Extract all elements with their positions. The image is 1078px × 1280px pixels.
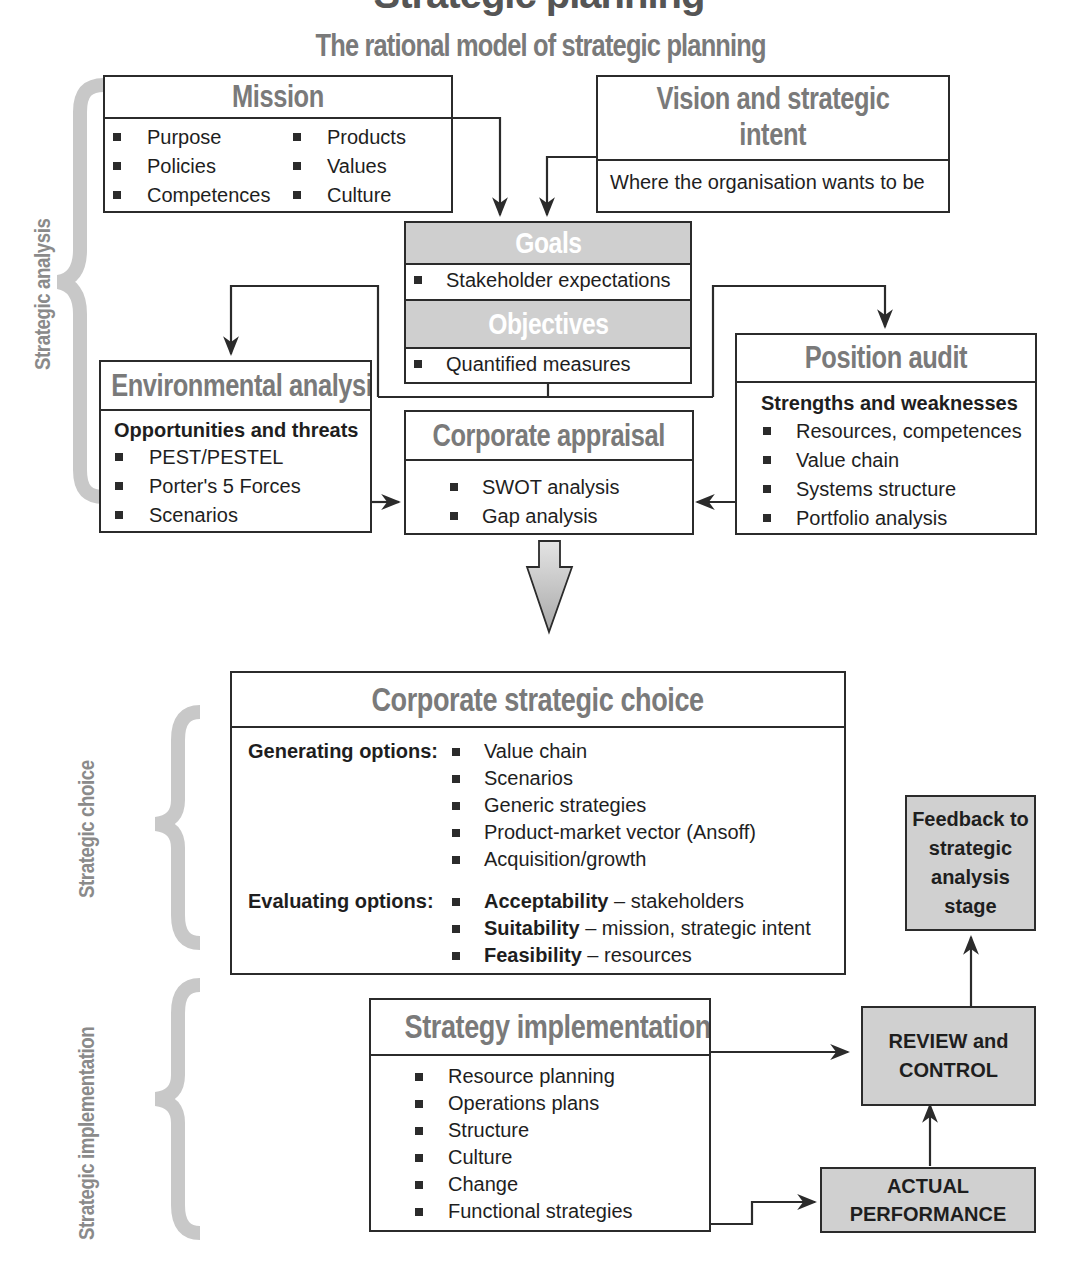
list-item: Systems structure [737, 475, 1035, 504]
criterion-detail: – resources [582, 944, 692, 966]
strategy-implementation-box: Strategy implementation Resource plannin… [369, 998, 711, 1232]
list-item: Suitability – mission, strategic intent [452, 915, 811, 942]
page-title: The rational model of strategic planning [99, 28, 983, 64]
position-title: Position audit [805, 335, 967, 381]
list-item: Competences [105, 181, 285, 210]
brace-choice [156, 712, 200, 943]
generating-options-list: Value chain Scenarios Generic strategies… [452, 738, 756, 873]
list-item: Value chain [737, 446, 1035, 475]
goals-title: Goals [515, 223, 581, 263]
list-item: Feasibility – resources [452, 942, 811, 969]
implementation-list: Resource planning Operations plans Struc… [371, 1056, 709, 1225]
list-item: Value chain [452, 738, 756, 765]
implementation-title: Strategy implementation [405, 1000, 709, 1054]
environmental-analysis-box: Environmental analysis Opportunities and… [99, 360, 372, 533]
goals-objectives-box: Goals Stakeholder expectations Objective… [404, 221, 692, 384]
list-item: Structure [371, 1117, 709, 1144]
evaluating-options-list: Acceptability – stakeholders Suitability… [452, 888, 811, 969]
side-label-strategic-analysis: Strategic analysis [30, 219, 56, 370]
criterion-name: Feasibility [484, 944, 582, 966]
list-item: Resources, competences [737, 417, 1035, 446]
list-item: Resource planning [371, 1063, 709, 1090]
review-line: REVIEW and [888, 1027, 1008, 1056]
list-item: Quantified measures [406, 350, 690, 379]
corporate-appraisal-box: Corporate appraisal SWOT analysis Gap an… [404, 410, 694, 535]
list-item: Portfolio analysis [737, 504, 1035, 533]
corporate-strategic-choice-box: Corporate strategic choice Generating op… [230, 671, 846, 975]
list-item: Product-market vector (Ansoff) [452, 819, 756, 846]
side-label-strategic-implementation: Strategic implementation [74, 1027, 100, 1240]
feedback-line: Feedback to [912, 805, 1029, 834]
environmental-title: Environmental analysis [111, 362, 370, 409]
position-audit-box: Position audit Strengths and weaknesses … [735, 333, 1037, 535]
big-down-arrow-icon [527, 541, 572, 632]
vision-title-line1: Vision and strategic [657, 81, 890, 117]
list-item: Change [371, 1171, 709, 1198]
generating-options-label: Generating options: [232, 738, 452, 873]
clipped-page-title: Strategic planning [0, 0, 1078, 17]
criterion-name: Suitability [484, 917, 580, 939]
list-item: Values [285, 152, 406, 181]
list-item: Operations plans [371, 1090, 709, 1117]
goals-list: Stakeholder expectations [406, 265, 690, 301]
criterion-detail: – stakeholders [608, 890, 744, 912]
list-item: Stakeholder expectations [406, 266, 690, 295]
feedback-line: stage [912, 892, 1029, 921]
feedback-line: strategic [912, 834, 1029, 863]
mission-list-left: Purpose Policies Competences [105, 123, 285, 210]
review-control-box: REVIEW and CONTROL [861, 1006, 1036, 1106]
brace-analysis [58, 85, 104, 497]
list-item: Scenarios [101, 501, 370, 530]
list-item: Gap analysis [406, 502, 692, 531]
brace-implementation [156, 985, 200, 1233]
environmental-list: PEST/PESTEL Porter's 5 Forces Scenarios [101, 443, 370, 530]
list-item: SWOT analysis [406, 473, 692, 502]
feedback-box: Feedback to strategic analysis stage [905, 795, 1036, 931]
list-item: Functional strategies [371, 1198, 709, 1225]
mission-title: Mission [232, 77, 324, 117]
list-item: Purpose [105, 123, 285, 152]
list-item: Culture [285, 181, 406, 210]
actual-line: PERFORMANCE [850, 1200, 1007, 1228]
list-item: Culture [371, 1144, 709, 1171]
mission-list-right: Products Values Culture [285, 123, 406, 210]
review-line: CONTROL [888, 1056, 1008, 1085]
objectives-list: Quantified measures [406, 349, 690, 379]
feedback-line: analysis [912, 863, 1029, 892]
choice-title: Corporate strategic choice [372, 673, 704, 726]
actual-line: ACTUAL [850, 1172, 1007, 1200]
list-item: PEST/PESTEL [101, 443, 370, 472]
evaluating-options-label: Evaluating options: [232, 888, 452, 969]
actual-performance-box: ACTUAL PERFORMANCE [820, 1167, 1036, 1233]
list-item: Generic strategies [452, 792, 756, 819]
environmental-subtitle: Opportunities and threats [101, 411, 370, 443]
position-subtitle: Strengths and weaknesses [737, 383, 1035, 417]
list-item: Acceptability – stakeholders [452, 888, 811, 915]
criterion-name: Acceptability [484, 890, 608, 912]
objectives-title: Objectives [488, 301, 608, 347]
list-item: Acquisition/growth [452, 846, 756, 873]
appraisal-list: SWOT analysis Gap analysis [406, 461, 692, 531]
side-label-strategic-choice: Strategic choice [74, 760, 100, 898]
list-item: Porter's 5 Forces [101, 472, 370, 501]
list-item: Scenarios [452, 765, 756, 792]
vision-box: Vision and strategic intent Where the or… [596, 75, 950, 213]
appraisal-title: Corporate appraisal [433, 412, 665, 459]
criterion-detail: – mission, strategic intent [580, 917, 811, 939]
mission-box: Mission Purpose Policies Competences Pro… [103, 75, 453, 213]
vision-body: Where the organisation wants to be [598, 161, 948, 194]
position-list: Resources, competences Value chain Syste… [737, 417, 1035, 533]
vision-title-line2: intent [740, 117, 807, 153]
list-item: Products [285, 123, 406, 152]
list-item: Policies [105, 152, 285, 181]
